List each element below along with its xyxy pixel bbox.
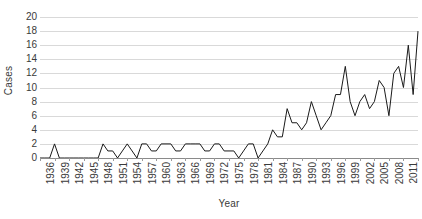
y-axis-tick-label: 16 [26,40,37,50]
x-axis-tick-mark [229,158,230,161]
x-axis-tick-mark [142,158,143,161]
cases-by-year-line-chart: Cases 02468101214161820 1936193919421945… [0,0,422,219]
x-axis-tick-mark [287,158,288,161]
series-cases-line [40,31,418,158]
x-axis-tick-mark [185,158,186,161]
x-axis-tick-mark [345,158,346,161]
x-axis-tick-label: 1939 [60,162,72,196]
x-axis-tick-mark [374,158,375,161]
y-axis-tick-label: 20 [26,12,37,22]
x-axis-tick-label: 1960 [161,162,173,196]
y-axis-title-text: Cases [4,65,15,94]
x-axis-tick-mark [98,158,99,161]
x-axis-tick-label: 1966 [190,162,202,196]
x-axis-tick-label: 1987 [292,162,304,196]
x-axis-tick-label: 1990 [307,162,319,196]
x-axis-tick-mark [214,158,215,161]
x-axis-tick-label: 1999 [350,162,362,196]
x-axis-tick-label: 1948 [103,162,115,196]
y-axis-tick-labels: 02468101214161820 [18,0,40,219]
y-axis-tick-label: 8 [31,97,37,107]
x-axis-tick-label: 2005 [379,162,391,196]
x-axis-tick-mark [127,158,128,161]
x-axis-tick-label: 1936 [45,162,57,196]
x-axis-tick-mark [69,158,70,161]
x-axis-tick-mark [331,158,332,161]
x-axis-tick-label: 1957 [147,162,159,196]
y-axis-tick-label: 14 [26,54,37,64]
x-axis-tick-label: 1969 [205,162,217,196]
x-axis-tick-label: 1963 [176,162,188,196]
x-axis-tick-mark [55,158,56,161]
x-axis-tick-label: 1996 [336,162,348,196]
x-axis-tick-mark [360,158,361,161]
x-axis-tick-mark [84,158,85,161]
x-axis-tick-mark [113,158,114,161]
y-axis-tick-label: 4 [31,125,37,135]
y-axis-tick-label: 0 [31,153,37,163]
x-axis-tick-mark [200,158,201,161]
x-axis-tick-label: 2008 [394,162,406,196]
x-axis-tick-mark [273,158,274,161]
y-axis-title: Cases [0,0,18,160]
x-axis-tick-mark [258,158,259,161]
data-line [40,17,418,158]
x-axis-title: Year [40,198,418,209]
x-axis-title-text: Year [218,198,239,209]
x-axis-tick-label: 1981 [263,162,275,196]
x-axis-tick-label: 1951 [118,162,130,196]
x-axis-tick-mark [403,158,404,161]
plot-area [40,17,418,158]
x-axis-tick-labels: 1936193919421945194819511954195719601963… [40,162,418,196]
y-axis-tick-label: 2 [31,139,37,149]
x-axis-tick-mark [316,158,317,161]
x-axis-tick-label: 2011 [408,162,420,196]
y-axis-tick-label: 12 [26,68,37,78]
x-axis-tick-label: 1993 [321,162,333,196]
x-axis-tick-label: 1975 [234,162,246,196]
x-axis-tick-label: 1978 [249,162,261,196]
x-axis-tick-mark [156,158,157,161]
x-axis-tick-mark [418,158,419,161]
x-axis-tick-label: 1954 [132,162,144,196]
x-axis-tick-mark [171,158,172,161]
x-axis-tick-mark [40,158,41,161]
x-axis-tick-mark [389,158,390,161]
x-axis-tick-mark [244,158,245,161]
x-axis-tick-mark [302,158,303,161]
x-axis-tick-label: 1942 [74,162,86,196]
y-axis-tick-label: 18 [26,26,37,36]
y-axis-tick-label: 6 [31,111,37,121]
x-axis-tick-label: 1945 [89,162,101,196]
y-axis-tick-label: 10 [26,83,37,93]
x-axis-tick-label: 1984 [278,162,290,196]
x-axis-tick-label: 2002 [365,162,377,196]
x-axis-tick-label: 1972 [219,162,231,196]
